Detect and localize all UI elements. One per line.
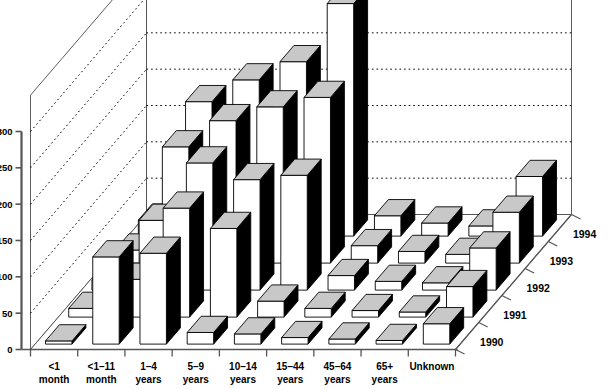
bar-front-face [399,312,425,317]
bar-side-face [307,159,321,290]
x-axis-label-2-line1: years [135,374,162,385]
x-axis-label-6-line1: years [324,374,351,385]
z-tick-2 [502,296,511,301]
x-axis-label-7-line1: years [372,374,399,385]
chart-container: 050100150200250300 <1month<1–11month1–4y… [0,0,615,389]
x-axis-label-7-line0: 65+ [376,361,393,372]
bar-side-face [354,0,368,236]
bar-1991-cat3 [210,212,250,317]
bar-front-face [352,311,378,318]
z-tick-4 [548,242,557,247]
y-tick-label-50: 50 [2,308,13,319]
bar-front-face [187,332,213,344]
bar-side-face [237,212,251,317]
x-axis-label-5-line1: years [277,374,304,385]
x-axis-category-labels: <1month<1–11month1–4years5–9years10–14ye… [39,361,455,385]
bar-front-face [46,341,72,344]
z-axis-label-1993: 1993 [550,255,574,267]
bar-side-face [119,241,133,344]
bar-side-face [330,81,344,263]
z-tick-3 [525,269,534,274]
bar-side-face [260,163,274,290]
z-tick-5 [572,215,581,220]
x-axis-label-1-line0: <1–11 [88,361,116,372]
bar-front-face [376,340,402,344]
bar-front-face [282,338,308,345]
bar-front-face [258,301,284,317]
y-tick-label-150: 150 [0,235,13,246]
bar-front-face [281,175,307,290]
bar-front-face [69,308,95,317]
z-tick-1 [479,323,488,328]
x-axis-label-5-line0: 15–44 [276,361,304,372]
x-axis-label-6-line0: 45–64 [324,361,352,372]
y-tick-label-0: 0 [7,344,12,355]
x-axis-label-0-line0: <1 [48,361,60,372]
z-axis-label-1994: 1994 [573,228,597,240]
x-axis-label-2-line0: 1–4 [140,361,157,372]
z-axis-label-1991: 1991 [503,309,527,321]
z-axis-label-1990: 1990 [480,336,504,348]
bar-1992-cat4 [281,159,321,290]
x-axis-label-4-line1: years [230,374,257,385]
y-tick-label-100: 100 [0,271,13,282]
three-d-bar-chart: 050100150200250300 <1month<1–11month1–4y… [0,0,615,389]
bar-front-face [423,324,449,344]
x-axis-label-4-line0: 10–14 [229,361,257,372]
bar-front-face [446,254,472,263]
bar-front-face [328,276,354,291]
bar-front-face [422,223,448,236]
bar-1990-cat1 [93,241,133,344]
bar-front-face [329,339,355,344]
x-axis-label-8-line0: Unknown [409,361,454,372]
y-tick-label-300: 300 [0,126,13,137]
bar-front-face [375,281,401,290]
y-axis-tick-labels: 050100150200250300 [0,126,13,355]
bar-front-face [398,251,424,263]
bar-front-face [234,334,260,344]
bar-front-face [93,257,119,344]
x-axis-label-1-line1: month [86,374,117,385]
z-tick-0 [456,350,465,355]
z-axis-label-1992: 1992 [527,282,551,294]
y-tick-label-200: 200 [0,199,13,210]
bar-front-face [305,308,331,317]
bar-front-face [210,228,236,317]
bar-1990-cat2 [140,237,180,344]
bar-side-face [166,237,180,344]
bar-front-face [140,253,166,344]
x-axis-label-0-line1: month [39,374,70,385]
x-axis-label-3-line0: 5–9 [187,361,204,372]
bar-front-face [422,283,448,290]
bar-side-face [190,192,204,317]
x-axis-label-3-line1: years [183,374,210,385]
y-tick-label-250: 250 [0,162,13,173]
